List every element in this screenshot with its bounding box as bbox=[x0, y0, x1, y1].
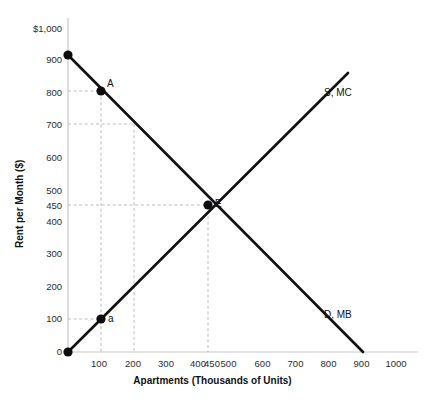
x-tick-700: 700 bbox=[278, 359, 313, 369]
supply-curve-line bbox=[68, 73, 348, 352]
y-axis-title: Rent per Month ($) bbox=[14, 160, 25, 248]
marker-point-a bbox=[96, 314, 105, 323]
y-tick-0: 0 bbox=[4, 347, 62, 357]
y-tick-300: 300 bbox=[4, 249, 62, 259]
x-tick-600: 600 bbox=[245, 359, 280, 369]
chart-figure: $1,000 900 800 700 600 500 450 400 300 2… bbox=[0, 0, 425, 402]
y-tick-500: 500 bbox=[4, 186, 62, 196]
y-tick-100: 100 bbox=[4, 314, 62, 324]
marker-demand-intercept bbox=[63, 50, 72, 59]
x-tick-900: 900 bbox=[344, 359, 379, 369]
y-tick-200: 200 bbox=[4, 282, 62, 292]
x-tick-200: 200 bbox=[115, 359, 151, 369]
marker-point-E bbox=[203, 200, 212, 209]
y-tick-400: 400 bbox=[4, 217, 62, 227]
marker-point-A bbox=[96, 86, 105, 95]
marker-origin bbox=[63, 347, 72, 356]
x-tick-300: 300 bbox=[148, 359, 184, 369]
x-tick-800: 800 bbox=[311, 359, 346, 369]
y-tick-450: 450 bbox=[4, 201, 62, 211]
guide-lines bbox=[68, 91, 208, 352]
x-tick-500: 500 bbox=[212, 359, 245, 369]
point-label-a: a bbox=[108, 314, 114, 324]
y-tick-600: 600 bbox=[4, 153, 62, 163]
plot-area bbox=[0, 0, 425, 402]
point-label-A: A bbox=[107, 79, 114, 89]
y-tick-800: 800 bbox=[4, 88, 62, 98]
x-axis-title: Apartments (Thousands of Units) bbox=[0, 375, 425, 386]
data-point-markers bbox=[63, 50, 212, 356]
x-tick-100: 100 bbox=[81, 359, 117, 369]
y-tick-900: 900 bbox=[4, 55, 62, 65]
y-tick-1000: $1,000 bbox=[4, 24, 62, 34]
x-tick-1000: 1000 bbox=[377, 359, 415, 369]
y-tick-700: 700 bbox=[4, 120, 62, 130]
curve-label-supply: S, MC bbox=[324, 88, 352, 98]
point-label-E: E bbox=[215, 199, 222, 209]
curve-label-demand: D, MB bbox=[324, 310, 352, 320]
